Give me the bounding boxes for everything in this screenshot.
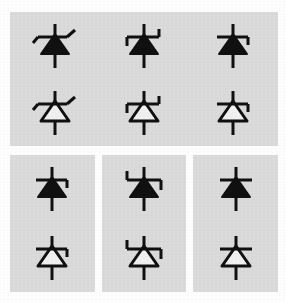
diode-symbol-z-bar-filled [118,12,170,79]
diode-symbol-right-tick-hollow [26,224,78,293]
diode-symbol-z-bar-filled [118,155,170,224]
panel-row-bottom [10,155,278,292]
panel-right-tick [10,155,95,292]
panel-group-top [10,12,278,146]
diode-symbol-right-tick-hollow [207,79,259,146]
diode-symbol-plain-bar-filled [210,155,262,224]
diode-symbol-s-bar-filled [29,12,81,79]
symbol-cell-z-bar [99,12,188,146]
diode-symbol-z-bar-hollow [118,224,170,293]
diode-symbol-plain-bar-hollow [210,224,262,293]
diode-symbol-right-tick-filled [207,12,259,79]
panel-z-bar [102,155,187,292]
panel-row-top [10,12,278,146]
symbol-cell-s-diagonal [10,12,99,146]
diode-symbol-figure [0,0,286,302]
diode-symbol-right-tick-filled [26,155,78,224]
diode-symbol-z-bar-hollow [118,79,170,146]
panel-plain-bar [193,155,278,292]
diode-symbol-s-bar-hollow [29,79,81,146]
symbol-cell-right-tick [189,12,278,146]
